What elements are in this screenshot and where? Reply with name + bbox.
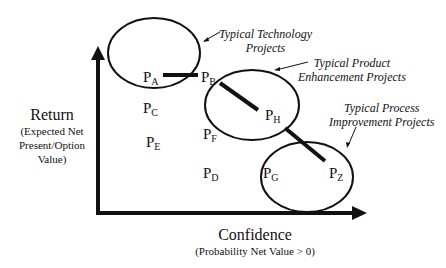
product-cluster-label: Typical Product Enhancement Projects (298, 56, 406, 84)
y-axis-subtitle-line: (Expected Net (12, 124, 92, 138)
technology-cluster-label: Typical Technology Projects (219, 27, 312, 55)
point-f: PF (203, 127, 217, 144)
y-axis (91, 46, 105, 213)
point-g: PG (263, 166, 279, 183)
y-axis-title: Return (12, 106, 92, 124)
point-b: PB (201, 70, 216, 87)
x-axis-subtitle: (Probability Net Value > 0) (160, 244, 350, 258)
x-axis-arrow-icon (352, 206, 367, 220)
point-c: PC (143, 101, 158, 118)
x-axis-title: Confidence (160, 226, 350, 244)
x-axis-label: Confidence (Probability Net Value > 0) (160, 226, 350, 258)
point-z: PZ (329, 166, 343, 183)
point-a: PA (143, 70, 159, 87)
process-cluster-label: Typical Process Improvement Projects (329, 101, 434, 129)
point-d: PD (203, 166, 219, 183)
point-h: PH (265, 108, 281, 125)
frontier-segment-b-h (220, 83, 258, 110)
y-axis-arrow-icon (91, 46, 105, 60)
point-e: PE (146, 135, 160, 152)
y-axis-subtitle-line: Value) (12, 152, 92, 166)
y-axis-label: Return (Expected Net Present/Option Valu… (12, 106, 92, 166)
y-axis-subtitle-line: Present/Option (12, 138, 92, 152)
